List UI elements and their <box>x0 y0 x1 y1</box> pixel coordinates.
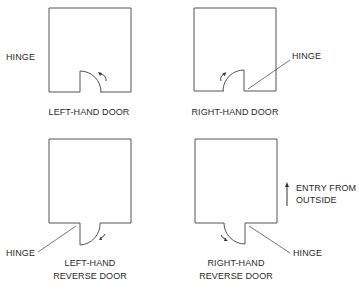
hinge-label-left-hand-reverse-door: HINGE <box>6 247 35 259</box>
door-swing-arc <box>80 71 101 92</box>
door-swing-arc <box>223 70 244 91</box>
hinge-label-right-hand-door: HINGE <box>292 50 321 62</box>
right-hand-reverse-door-plan <box>195 139 290 253</box>
hinge-label-right-hand-reverse-door: HINGE <box>293 247 322 259</box>
caption-right-hand-reverse-door-line2: REVERSE DOOR <box>199 270 273 282</box>
hinge-leader-line <box>248 60 290 89</box>
up-arrow-icon <box>285 182 289 206</box>
left-hand-reverse-door-plan <box>38 139 131 252</box>
entry-note-line1: ENTRY FROM <box>296 182 356 194</box>
caption-right-hand-reverse-door-line1: RIGHT-HAND <box>208 257 265 269</box>
swing-arrow-icon <box>100 74 106 81</box>
door-diagram-canvas <box>0 0 359 289</box>
door-swing-arc <box>80 223 100 245</box>
caption-right-hand-door: RIGHT-HAND DOOR <box>192 106 279 118</box>
caption-left-hand-door: LEFT-HAND DOOR <box>49 106 130 118</box>
caption-left-hand-reverse-door-line1: LEFT-HAND <box>65 257 116 269</box>
swing-arrow-icon <box>221 74 224 81</box>
hinge-leader-line <box>38 226 76 252</box>
entry-note-line2: OUTSIDE <box>296 194 337 206</box>
right-hand-door-plan <box>194 8 290 91</box>
left-hand-door-plan <box>49 8 131 92</box>
hinge-leader-line <box>249 226 290 253</box>
hinge-label-left-hand-door: HINGE <box>6 51 35 63</box>
caption-left-hand-reverse-door-line2: REVERSE DOOR <box>53 270 127 282</box>
